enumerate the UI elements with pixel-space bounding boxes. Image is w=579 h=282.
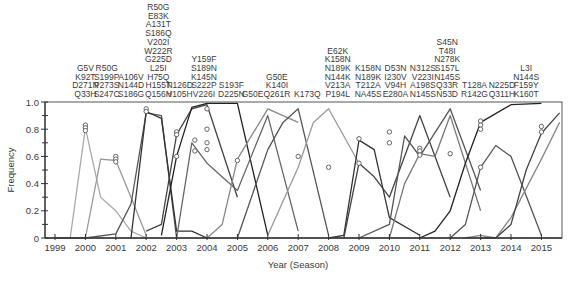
peak-marker [144, 109, 148, 113]
frequency-line-chart: G5VK92TD271NQ33HR50GS199PP273SS247CA106V… [0, 0, 579, 282]
peak-marker [478, 165, 482, 169]
y-tick-label: 1.0 [26, 97, 39, 108]
x-tick-label: 2013 [470, 242, 491, 253]
mutation-label: V105H [167, 89, 193, 99]
series-line [146, 105, 237, 232]
peak-marker [296, 154, 300, 158]
mutation-label: N53D [436, 89, 458, 99]
mutation-label: Q311H [489, 89, 515, 99]
mutation-label: NA45S [355, 89, 382, 99]
mutation-label: P194L [325, 89, 350, 99]
x-tick-label: 2008 [318, 242, 339, 253]
series-lines [55, 103, 560, 238]
peak-marker [205, 141, 209, 145]
mutation-label: S247C [94, 89, 120, 99]
x-tick-label: 2001 [105, 242, 126, 253]
peak-marker [114, 160, 118, 164]
x-tick-label: 2015 [531, 242, 552, 253]
series-line [329, 140, 420, 238]
series-line [177, 116, 299, 238]
peak-marker [193, 138, 197, 142]
x-tick-label: 1999 [44, 242, 65, 253]
x-tick-label: 2011 [410, 242, 430, 253]
series-line [481, 113, 560, 238]
mutation-label: G50E [242, 89, 264, 99]
mutation-label: K160T [514, 89, 539, 99]
x-tick-label: 2006 [257, 242, 278, 253]
mutation-label: E280A [383, 89, 409, 99]
y-tick-label: 0.2 [26, 205, 39, 216]
peak-marker [387, 130, 391, 134]
peak-marker [326, 165, 330, 169]
y-tick-label: 0.6 [26, 151, 39, 162]
peak-marker [205, 127, 209, 131]
x-tick-label: 2010 [379, 242, 400, 253]
y-tick-label: 0.4 [26, 178, 39, 189]
peak-marker [357, 137, 361, 141]
x-tick-label: 2000 [75, 242, 96, 253]
x-tick-label: 2004 [196, 242, 217, 253]
mutation-annotations: G5VK92TD271NQ33HR50GS199PP273SS247CA106V… [72, 2, 539, 99]
mutation-label: D225N [218, 89, 244, 99]
x-tick-label: 2012 [440, 242, 461, 253]
peak-marker [418, 153, 422, 157]
x-tick-label: 2005 [227, 242, 248, 253]
peak-marker [539, 130, 543, 134]
peak-marker [357, 161, 361, 165]
peak-marker [174, 132, 178, 136]
peak-marker [174, 154, 178, 158]
plot-frame [45, 102, 562, 238]
peak-marker [387, 141, 391, 145]
peak-marker [539, 124, 543, 128]
series-line [131, 112, 207, 239]
x-axis-title: Year (Season) [268, 259, 328, 270]
peak-marker [448, 151, 452, 155]
x-tick-label: 2007 [288, 242, 309, 253]
peak-marker [478, 127, 482, 131]
series-line [207, 109, 298, 238]
x-tick-label: 2002 [136, 242, 157, 253]
peak-marker [205, 107, 209, 111]
y-tick-label: 0 [34, 233, 39, 244]
x-tick-label: 2009 [348, 242, 369, 253]
mutation-label: S186G [118, 89, 144, 99]
peak-marker [235, 158, 239, 162]
mutation-label: N145S [410, 89, 436, 99]
peak-marker [193, 149, 197, 153]
x-tick-label: 2003 [166, 242, 187, 253]
mutation-label: R142G [461, 89, 488, 99]
x-tick-label: 2014 [500, 242, 521, 253]
peak-marker [205, 147, 209, 151]
mutation-label: K173Q [294, 89, 321, 99]
y-tick-label: 0.8 [26, 124, 39, 135]
mutation-label: V226I [193, 89, 215, 99]
peak-marker [83, 128, 87, 132]
y-axis-title: Frequency [5, 147, 16, 192]
mutation-label: Q261R [263, 89, 290, 99]
